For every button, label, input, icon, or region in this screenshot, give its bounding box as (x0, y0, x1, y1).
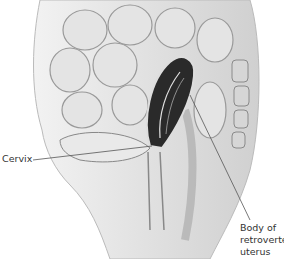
label-body-line1: Body of (240, 222, 276, 234)
pelvis-illustration (0, 0, 284, 259)
label-body-line3: uterus (240, 246, 270, 258)
label-body-line2: retroverted (240, 234, 284, 246)
label-cervix: Cervix (2, 153, 32, 165)
anatomy-diagram: Cervix Body of retroverted uterus (0, 0, 284, 259)
